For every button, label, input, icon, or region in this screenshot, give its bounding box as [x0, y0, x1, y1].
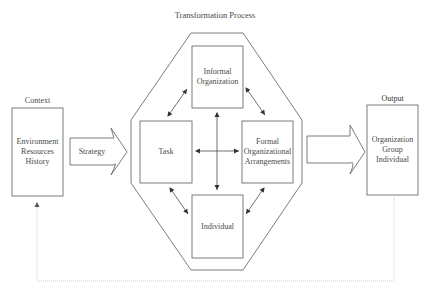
arrow-task-informal: [168, 89, 187, 116]
formal-line: Organizational: [244, 147, 291, 157]
context-label: Context: [12, 96, 63, 106]
informal-line: Organization: [197, 77, 239, 87]
output-arrow: [307, 125, 365, 174]
task-text: Task: [140, 121, 192, 183]
individual-line: Individual: [201, 222, 234, 232]
output-line: Organization: [372, 135, 414, 145]
arrow-formal-individual: [246, 188, 264, 214]
informal-line: Informal: [204, 67, 232, 77]
formal-line: Arrangements: [245, 157, 290, 167]
context-line: Environment: [17, 137, 59, 147]
strategy-label: Strategy: [70, 138, 114, 165]
arrow-informal-formal: [246, 88, 265, 115]
output-box-text: Organization Group Individual: [367, 105, 418, 195]
individual-text: Individual: [192, 195, 243, 258]
output-line: Individual: [376, 155, 409, 165]
output-label: Output: [367, 94, 418, 104]
context-box-text: Environment Resources History: [12, 108, 63, 196]
informal-organization-text: Informal Organization: [192, 46, 243, 108]
formal-arrangements-text: Formal Organizational Arrangements: [242, 121, 293, 183]
context-line: Resources: [21, 147, 54, 157]
task-line: Task: [159, 147, 174, 157]
context-line: History: [26, 157, 50, 167]
output-line: Group: [382, 145, 402, 155]
diagram-title: Transformation Process: [165, 10, 265, 20]
formal-line: Formal: [256, 137, 279, 147]
strategy-text: Strategy: [79, 147, 106, 157]
arrow-task-individual: [170, 188, 188, 214]
